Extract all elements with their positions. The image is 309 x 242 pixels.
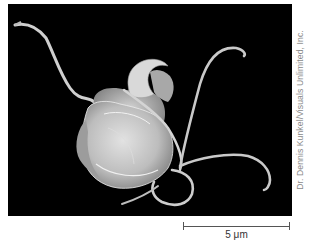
scale-bar-line bbox=[183, 226, 290, 227]
photo-credit: Dr. Dennis Kunkel/Visuals Unlimited, Inc… bbox=[294, 4, 306, 216]
micrograph-image bbox=[8, 4, 292, 216]
photo-credit-text: Dr. Dennis Kunkel/Visuals Unlimited, Inc… bbox=[295, 30, 305, 190]
scale-bar-label: 5 μm bbox=[183, 229, 290, 240]
specimen-illustration bbox=[8, 4, 292, 216]
